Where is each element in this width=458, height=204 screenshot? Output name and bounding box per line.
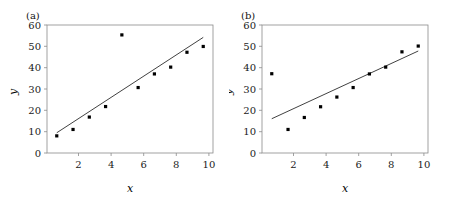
x-tick-label: 8 xyxy=(173,159,179,170)
x-axis-title-a: x xyxy=(127,182,134,195)
x-tick-label: 2 xyxy=(290,159,296,170)
data-point xyxy=(352,86,355,89)
x-tick-label: 10 xyxy=(203,159,216,170)
y-tick-labels-b: 0 10 20 30 40 50 60 xyxy=(243,20,256,159)
data-point xyxy=(417,44,420,47)
panel-a: (a) 0 10 20 3 xyxy=(0,0,229,204)
x-axis-title-b: x xyxy=(342,182,349,195)
y-tick-label: 30 xyxy=(243,84,256,95)
data-point xyxy=(368,72,371,75)
figure-two-panel-scatter: (a) 0 10 20 3 xyxy=(0,0,458,204)
panel-b-plot: 0 10 20 30 40 50 60 2 4 6 8 10 x y xyxy=(229,0,458,204)
data-point xyxy=(55,134,58,137)
y-tick-label: 0 xyxy=(35,148,41,159)
data-point xyxy=(71,128,74,131)
y-axis-title-b: y xyxy=(229,88,235,96)
data-point xyxy=(335,95,338,98)
data-point xyxy=(303,116,306,119)
data-point xyxy=(270,72,273,75)
data-point xyxy=(88,115,91,118)
y-tick-labels-a: 0 10 20 30 40 50 60 xyxy=(28,20,41,159)
x-tick-label: 4 xyxy=(108,159,114,170)
data-point xyxy=(185,51,188,54)
y-tick-label: 40 xyxy=(243,62,256,73)
data-point xyxy=(384,66,387,69)
y-tick-label: 0 xyxy=(250,148,256,159)
y-tick-label: 30 xyxy=(28,84,41,95)
x-tick-labels-a: 2 4 6 8 10 xyxy=(75,159,215,170)
y-tick-label: 20 xyxy=(28,105,41,116)
y-tick-label: 50 xyxy=(243,41,256,52)
data-point xyxy=(120,33,123,36)
x-axis-ticks-a xyxy=(79,153,209,156)
x-tick-labels-b: 2 4 6 8 10 xyxy=(290,159,430,170)
data-point xyxy=(400,50,403,53)
panel-a-plot: 0 10 20 30 40 50 60 2 4 6 8 10 x y xyxy=(0,0,229,204)
plot-frame-a xyxy=(47,25,213,153)
y-tick-label: 60 xyxy=(28,20,41,31)
data-point xyxy=(104,105,107,108)
data-point xyxy=(202,45,205,48)
y-axis-ticks-b xyxy=(259,25,262,153)
x-tick-label: 2 xyxy=(75,159,81,170)
plot-frame-b xyxy=(262,25,428,153)
data-point xyxy=(169,66,172,69)
data-point xyxy=(137,86,140,89)
panel-b: (b) 0 10 20 3 xyxy=(229,0,458,204)
x-tick-label: 6 xyxy=(141,159,147,170)
y-axis-ticks-a xyxy=(44,25,47,153)
x-tick-label: 8 xyxy=(388,159,394,170)
data-point xyxy=(319,105,322,108)
data-point xyxy=(286,128,289,131)
x-axis-ticks-b xyxy=(294,153,424,156)
y-axis-title-a: y xyxy=(7,88,20,96)
x-tick-label: 6 xyxy=(356,159,362,170)
y-tick-label: 20 xyxy=(243,105,256,116)
y-tick-label: 10 xyxy=(243,126,256,137)
x-tick-label: 10 xyxy=(418,159,431,170)
y-tick-label: 50 xyxy=(28,41,41,52)
data-point xyxy=(153,72,156,75)
y-tick-label: 40 xyxy=(28,62,41,73)
x-tick-label: 4 xyxy=(323,159,329,170)
y-tick-label: 60 xyxy=(243,20,256,31)
y-tick-label: 10 xyxy=(28,126,41,137)
